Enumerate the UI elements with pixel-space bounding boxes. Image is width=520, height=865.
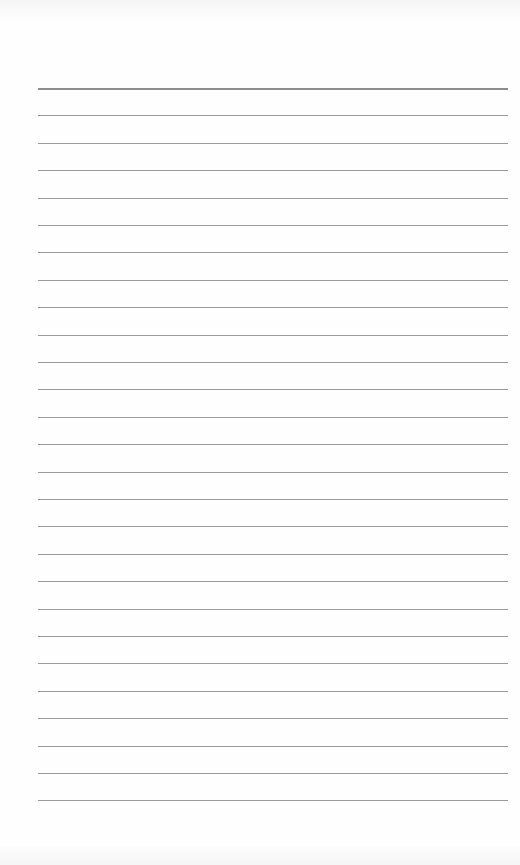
- rule-line: [38, 718, 508, 719]
- rule-line: [38, 417, 508, 418]
- rule-line: [38, 307, 508, 308]
- rule-line: [38, 691, 508, 692]
- rule-line: [38, 746, 508, 747]
- rule-line: [38, 198, 508, 199]
- top-edge-shadow: [0, 0, 520, 22]
- rule-line: [38, 554, 508, 555]
- rule-line: [38, 170, 508, 171]
- ruled-paper-page: [0, 0, 520, 865]
- rule-line: [38, 252, 508, 253]
- rule-line: [38, 472, 508, 473]
- rule-line: [38, 389, 508, 390]
- header-rule-line: [38, 88, 508, 90]
- rule-line: [38, 335, 508, 336]
- rule-line: [38, 581, 508, 582]
- rule-line: [38, 143, 508, 144]
- bottom-edge-shadow: [0, 843, 520, 865]
- rule-line: [38, 444, 508, 445]
- rule-line: [38, 636, 508, 637]
- rule-line: [38, 663, 508, 664]
- rule-line: [38, 526, 508, 527]
- rule-line: [38, 800, 508, 801]
- rule-line: [38, 773, 508, 774]
- rule-line: [38, 115, 508, 116]
- rule-line: [38, 225, 508, 226]
- rule-line: [38, 362, 508, 363]
- rule-line: [38, 499, 508, 500]
- rule-line: [38, 280, 508, 281]
- rule-line: [38, 609, 508, 610]
